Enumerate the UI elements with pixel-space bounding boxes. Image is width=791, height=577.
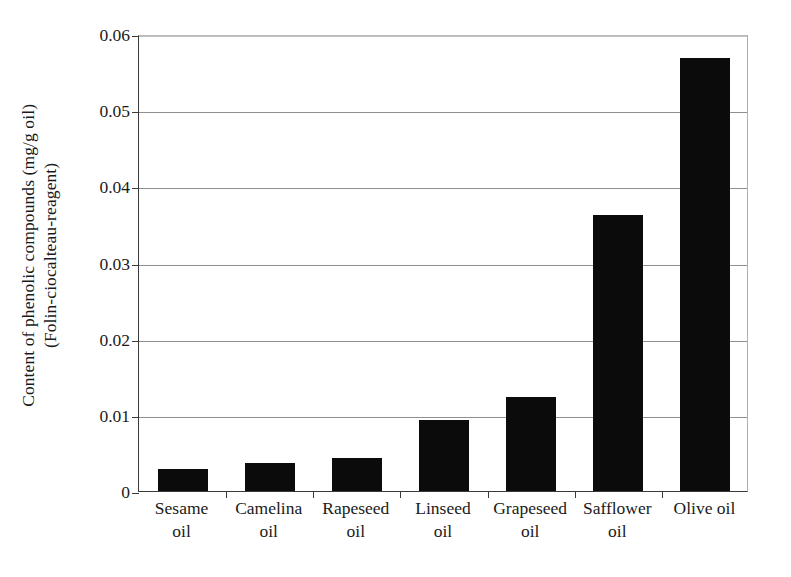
x-tick-label-line: Sesame xyxy=(138,497,225,520)
y-tick-label: 0.05 xyxy=(99,101,130,122)
bar xyxy=(419,420,469,491)
bar xyxy=(593,215,643,491)
x-tick-label-line: oil xyxy=(225,520,312,543)
y-tick-mark xyxy=(132,36,139,37)
bar xyxy=(332,458,382,492)
x-tick-label-line: Safflower xyxy=(574,497,661,520)
y-tick-label: 0 xyxy=(121,482,130,503)
y-tick-mark xyxy=(132,417,139,418)
bar-series xyxy=(139,36,747,491)
x-tick-label-line: Linseed xyxy=(399,497,486,520)
y-axis-title-line1: Content of phenolic compounds (mg/g oil) xyxy=(17,104,39,407)
x-tick-label-line: oil xyxy=(574,520,661,543)
y-tick-label: 0.01 xyxy=(99,405,130,426)
x-tick-label: Rapeseedoil xyxy=(312,497,399,543)
y-tick-label: 0.03 xyxy=(99,253,130,274)
y-axis-title: Content of phenolic compounds (mg/g oil)… xyxy=(0,0,78,510)
x-tick-label: Olive oil xyxy=(661,497,748,520)
bar xyxy=(245,463,295,491)
x-tick-label: Camelinaoil xyxy=(225,497,312,543)
y-tick-mark xyxy=(132,188,139,189)
y-tick-label: 0.06 xyxy=(99,25,130,46)
bar-chart-figure: Content of phenolic compounds (mg/g oil)… xyxy=(0,0,791,577)
bar xyxy=(158,469,208,491)
bar xyxy=(506,397,556,491)
x-tick-label: Sesameoil xyxy=(138,497,225,543)
x-tick-label: Grapeseedoil xyxy=(487,497,574,543)
y-tick-mark xyxy=(132,493,139,494)
x-tick-label: Saffloweroil xyxy=(574,497,661,543)
bar xyxy=(680,58,730,491)
y-tick-mark xyxy=(132,341,139,342)
x-tick-label-line: Rapeseed xyxy=(312,497,399,520)
x-tick-label-line: oil xyxy=(399,520,486,543)
plot-area xyxy=(138,35,748,492)
x-tick-label-line: oil xyxy=(138,520,225,543)
x-tick-label-line: oil xyxy=(312,520,399,543)
y-tick-label: 0.04 xyxy=(99,177,130,198)
x-tick-label: Linseedoil xyxy=(399,497,486,543)
x-tick-label-line: Olive oil xyxy=(661,497,748,520)
y-tick-label: 0.02 xyxy=(99,329,130,350)
y-tick-mark xyxy=(132,265,139,266)
x-axis-tick-labels: SesameoilCamelinaoilRapeseedoilLinseedoi… xyxy=(138,497,748,577)
x-tick-label-line: oil xyxy=(487,520,574,543)
x-tick-label-line: Camelina xyxy=(225,497,312,520)
y-axis-tick-labels: 00.010.020.030.040.050.06 xyxy=(72,0,138,577)
y-tick-mark xyxy=(132,112,139,113)
y-axis-title-line2: (Folin-ciocalteau-reagent) xyxy=(39,104,61,407)
x-tick-label-line: Grapeseed xyxy=(487,497,574,520)
